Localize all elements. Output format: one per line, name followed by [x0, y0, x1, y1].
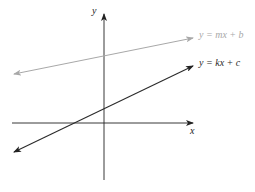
x-axis-label: x — [189, 125, 195, 136]
y-axis-label: y — [91, 5, 97, 16]
label-mx-plus-b: y = mx + b — [198, 29, 244, 40]
label-kx-plus-c: y = kx + c — [198, 57, 241, 68]
coordinate-diagram: y x y = mx + b y = kx + c — [0, 0, 255, 192]
line-kx-plus-c — [14, 66, 193, 152]
line-mx-plus-b — [14, 38, 193, 74]
